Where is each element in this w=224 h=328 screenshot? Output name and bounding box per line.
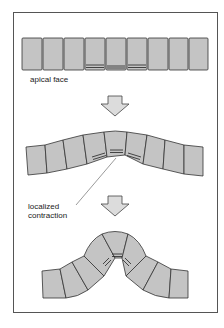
apical-face-label: apical face bbox=[30, 75, 68, 84]
epithelial-folding-diagram: apical face localized contraction bbox=[0, 0, 224, 328]
diagram-canvas bbox=[0, 0, 224, 328]
localized-contraction-label-line2: contraction bbox=[28, 211, 67, 220]
stage-1-flat-row bbox=[22, 38, 208, 70]
localized-contraction-label-line1: localized bbox=[28, 202, 59, 211]
